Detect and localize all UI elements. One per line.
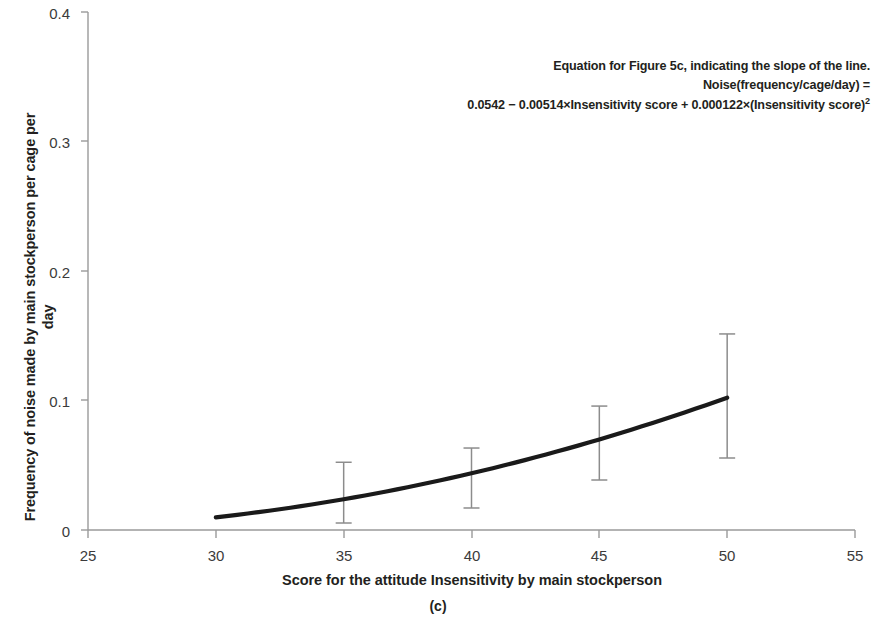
x-tick-label-40: 40	[448, 548, 496, 563]
x-tick-label-35: 35	[320, 548, 368, 563]
equation-line-1: Equation for Figure 5c, indicating the s…	[330, 57, 870, 76]
x-axis-title: Score for the attitude Insensitivity by …	[88, 572, 856, 588]
figure-panel-c: 0 0.1 0.2 0.3 0.4 25 30 35 40 45 50 55 F…	[0, 0, 877, 621]
x-tick-label-30: 30	[192, 548, 240, 563]
equation-line-2: Noise(frequency/cage/day) =	[330, 76, 870, 95]
y-axis-title-line2: day	[39, 305, 57, 330]
y-axis-title-line1: Frequency of noise made by main stockper…	[21, 113, 39, 522]
error-bar-group	[336, 334, 735, 523]
y-axis-ticks	[81, 12, 88, 530]
equation-line-3-part-a: 0.0542	[467, 98, 508, 112]
x-tick-label-45: 45	[575, 548, 623, 563]
equation-line-3-part-c: 0.00514×Insensitivity score + 0.000122×(…	[515, 98, 865, 112]
error-bar-40	[464, 448, 480, 508]
equation-line-3: 0.0542 − 0.00514×Insensitivity score + 0…	[330, 95, 870, 115]
panel-caption: (c)	[88, 598, 788, 614]
x-tick-label-25: 25	[64, 548, 112, 563]
x-tick-label-50: 50	[703, 548, 751, 563]
x-axis-ticks	[88, 530, 855, 538]
x-tick-label-55: 55	[831, 548, 877, 563]
equation-exponent: 2	[865, 96, 870, 106]
equation-annotation: Equation for Figure 5c, indicating the s…	[330, 57, 870, 116]
y-tick-label-0.4: 0.4	[18, 6, 70, 21]
error-bar-35	[336, 462, 352, 523]
y-axis-title: Frequency of noise made by main stockper…	[19, 82, 59, 552]
